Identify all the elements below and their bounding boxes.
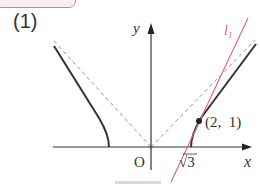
origin-dot bbox=[150, 146, 153, 149]
asymptote-right bbox=[151, 40, 255, 147]
tangent-point bbox=[196, 118, 202, 124]
asymptote-left bbox=[53, 40, 151, 147]
y-axis-label: y bbox=[131, 20, 140, 36]
footer-bar bbox=[115, 181, 161, 184]
x-intercept-label: √3 bbox=[179, 154, 195, 170]
x-axis-arrow-icon bbox=[242, 144, 252, 151]
hyperbola-left-branch bbox=[54, 46, 109, 147]
tangent-label: l1 bbox=[224, 23, 232, 40]
origin-label: O bbox=[134, 154, 145, 170]
y-axis-arrow-icon bbox=[148, 23, 155, 34]
point-label: (2, 1) bbox=[205, 114, 241, 131]
graph: y x O √3 (2, 1) l1 bbox=[0, 0, 260, 184]
x-axis-label: x bbox=[243, 153, 251, 170]
